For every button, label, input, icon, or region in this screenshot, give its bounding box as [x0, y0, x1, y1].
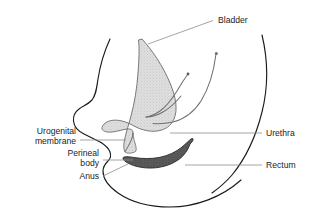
- label-perineal-body-line2: body: [80, 158, 99, 168]
- duct-terminal-upper: [215, 52, 218, 55]
- label-rectum: Rectum: [266, 160, 296, 170]
- bladder-structure: [102, 39, 176, 153]
- leader-anus: [103, 164, 128, 176]
- label-perineal-body-line1: Perineal: [67, 148, 99, 158]
- anatomy-diagram: Bladder Urethra Rectum Urogenital membra…: [0, 0, 315, 218]
- label-urethra: Urethra: [266, 128, 295, 138]
- bladder-shape: [102, 39, 176, 152]
- pelvic-wall-arc: [212, 35, 267, 193]
- label-anus: Anus: [79, 171, 99, 181]
- label-bladder: Bladder: [218, 15, 248, 25]
- perineum-contour: [101, 143, 241, 208]
- label-urogenital-membrane-line2: membrane: [35, 136, 76, 146]
- label-urogenital-membrane-line1: Urogenital: [37, 126, 76, 136]
- anatomy-figure: Bladder Urethra Rectum Urogenital membra…: [0, 0, 315, 218]
- duct-terminal-middle: [187, 73, 190, 76]
- leader-bladder: [148, 21, 213, 45]
